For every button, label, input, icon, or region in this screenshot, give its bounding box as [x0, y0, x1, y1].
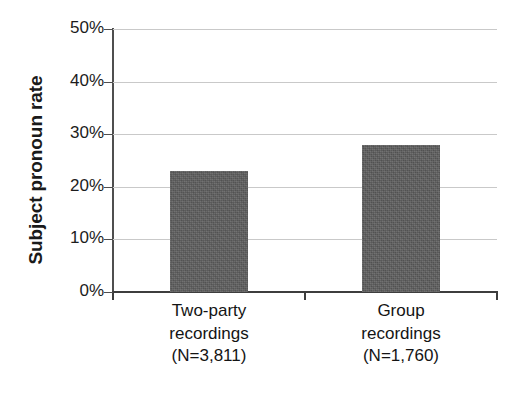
x-tick-right — [496, 292, 498, 300]
x-tick-left — [112, 292, 114, 300]
plot-area — [113, 29, 497, 292]
bar-1 — [170, 171, 248, 292]
y-tick-mark-10% — [104, 239, 113, 240]
y-tick-label-0%: 0% — [46, 281, 104, 301]
category-label-1-line-3: (N=3,811) — [113, 345, 305, 368]
category-label-1: Two-partyrecordings(N=3,811) — [113, 300, 305, 368]
bar-chart-figure: Subject pronoun rate 50%40%30%20%10%0% T… — [0, 0, 519, 398]
category-label-2-line-1: Group — [305, 300, 497, 323]
category-label-2-line-2: recordings — [305, 323, 497, 346]
gridline-50% — [113, 29, 497, 30]
y-axis-ticks: 50%40%30%20%10%0% — [0, 0, 104, 398]
y-tick-mark-0% — [104, 292, 113, 293]
gridline-30% — [113, 134, 497, 135]
y-tick-mark-30% — [104, 134, 113, 135]
y-tick-label-30%: 30% — [46, 123, 104, 143]
y-tick-label-10%: 10% — [46, 228, 104, 248]
y-tick-mark-40% — [104, 82, 113, 83]
y-tick-label-20%: 20% — [46, 176, 104, 196]
category-label-1-line-1: Two-party — [113, 300, 305, 323]
category-label-2: Grouprecordings(N=1,760) — [305, 300, 497, 368]
y-tick-label-40%: 40% — [46, 71, 104, 91]
y-tick-label-50%: 50% — [46, 18, 104, 38]
category-label-1-line-2: recordings — [113, 323, 305, 346]
category-label-2-line-3: (N=1,760) — [305, 345, 497, 368]
y-tick-mark-50% — [104, 29, 113, 30]
bar-2 — [362, 145, 440, 292]
x-tick-middle — [304, 292, 306, 300]
gridline-40% — [113, 82, 497, 83]
y-tick-mark-20% — [104, 187, 113, 188]
